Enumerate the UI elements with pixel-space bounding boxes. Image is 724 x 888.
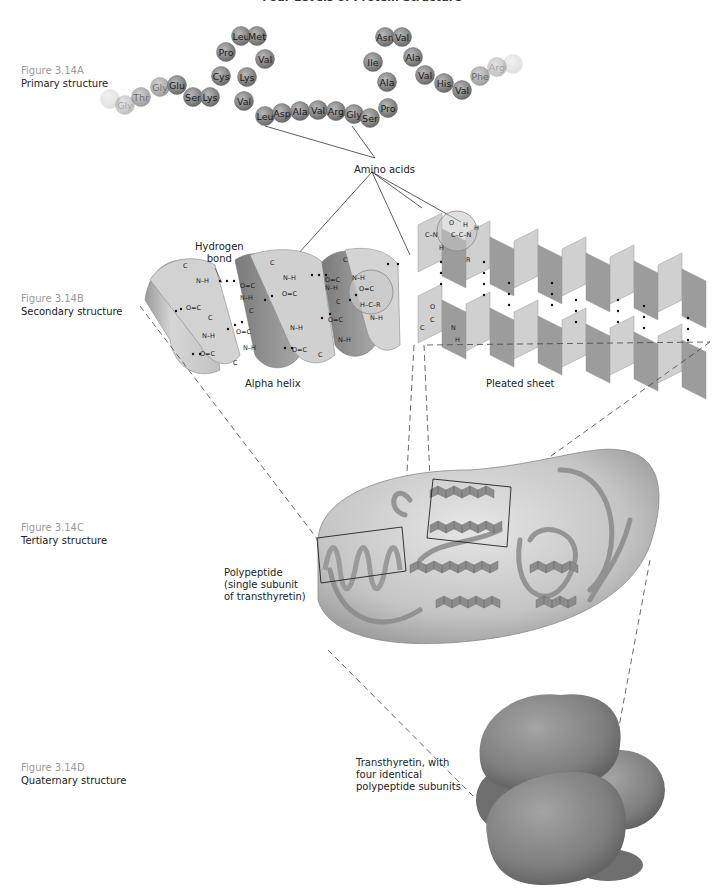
- amino-acid-label: Ala: [293, 106, 308, 117]
- svg-text:R: R: [466, 256, 471, 264]
- svg-text:H: H: [463, 221, 468, 229]
- amino-acid-label: Lys: [240, 72, 255, 83]
- amino-acid-bead: Leu: [256, 107, 275, 126]
- amino-acid-label: Lys: [203, 92, 218, 103]
- svg-text:C: C: [430, 316, 435, 324]
- amino-acid-label: Leu: [257, 111, 274, 122]
- protein-structure-artwork: GlyThrGlyGluSerLysCysProLeuMetValLysValL…: [0, 0, 724, 888]
- amino-acid-label: Ser: [185, 92, 201, 103]
- amino-acid-label: Val: [258, 54, 272, 65]
- amino-acid-label: His: [437, 78, 452, 89]
- amino-acid-label: Phe: [471, 71, 489, 82]
- svg-text:C: C: [343, 256, 348, 264]
- amino-acid-bead: Ile: [364, 53, 383, 72]
- svg-text:H–C–R: H–C–R: [360, 301, 381, 309]
- svg-text:C: C: [336, 298, 341, 306]
- svg-text:C: C: [249, 307, 254, 315]
- svg-text:N–H: N–H: [202, 332, 215, 340]
- alpha-helix-label: Alpha helix: [245, 378, 301, 390]
- amino-acid-label: Thr: [132, 92, 149, 103]
- svg-text:O=C: O=C: [328, 316, 344, 324]
- pleated-sheet-label: Pleated sheet: [486, 378, 554, 390]
- amino-acid-label: Glu: [169, 80, 185, 91]
- svg-text:O=C: O=C: [292, 346, 308, 354]
- svg-text:H: H: [474, 224, 479, 232]
- quaternary-blob: [476, 694, 665, 885]
- amino-acid-bead: Val: [393, 28, 412, 47]
- svg-text:C: C: [233, 359, 238, 367]
- tertiary-envelope: [317, 449, 659, 643]
- svg-text:C: C: [318, 351, 323, 359]
- amino-acid-bead: Val: [416, 66, 435, 85]
- amino-acid-label: Pro: [218, 47, 233, 58]
- svg-text:O=C: O=C: [186, 304, 202, 312]
- amino-acid-label: Arg: [328, 106, 344, 117]
- amino-acid-bead: Arg: [327, 102, 346, 121]
- amino-acid-label: Gly: [346, 109, 362, 120]
- amino-acid-label: Ala: [406, 52, 421, 63]
- pleated-sheet: C–NH OC–C–N HH R OC CN H: [418, 211, 706, 399]
- amino-acid-bead: Asp: [273, 104, 292, 123]
- svg-text:N–H: N–H: [283, 274, 296, 282]
- amino-acid-label: Pro: [380, 103, 395, 114]
- amino-acid-bead: Ala: [378, 73, 397, 92]
- svg-text:O: O: [449, 219, 454, 227]
- svg-text:O=C: O=C: [200, 350, 216, 358]
- amino-acid-label: Met: [248, 31, 266, 42]
- amino-acid-bead: Ala: [291, 102, 310, 121]
- amino-acid-label: Ala: [380, 77, 395, 88]
- svg-text:H: H: [455, 336, 460, 344]
- amino-acid-label: Val: [311, 105, 325, 116]
- svg-text:O=C: O=C: [282, 290, 298, 298]
- amino-acid-bead: Ala: [404, 48, 423, 67]
- quaternary-caption: Transthyretin, with four identical polyp…: [356, 757, 461, 793]
- svg-text:N–H: N–H: [240, 294, 253, 302]
- amino-acid-bead: Asn: [376, 28, 395, 47]
- amino-acid-bead: Thr: [132, 88, 151, 107]
- amino-acid-bead: Lys: [201, 88, 220, 107]
- svg-text:N–H: N–H: [243, 344, 256, 352]
- amino-acid-bead: Ser: [361, 109, 380, 128]
- amino-acid-bead: Met: [248, 27, 267, 46]
- amino-acid-label: Asn: [376, 32, 393, 43]
- amino-acid-label: Val: [455, 85, 469, 96]
- svg-text:N–H: N–H: [325, 284, 338, 292]
- svg-text:N–H: N–H: [338, 336, 351, 344]
- amino-acid-bead: His: [435, 74, 454, 93]
- amino-acid-label: Val: [395, 32, 409, 43]
- hydrogen-bond-label: Hydrogen bond: [195, 241, 244, 265]
- amino-acid-label: Arg: [489, 62, 505, 73]
- svg-text:O=C: O=C: [236, 328, 252, 336]
- amino-acid-label: Ile: [367, 57, 378, 68]
- svg-text:O=C: O=C: [359, 285, 375, 293]
- amino-acid-bead: Cys: [212, 67, 231, 86]
- amino-acid-label: Cys: [212, 71, 229, 82]
- svg-text:N–H: N–H: [290, 324, 303, 332]
- amino-acid-bead: Glu: [168, 76, 187, 95]
- svg-text:O: O: [430, 303, 435, 311]
- svg-text:N–H: N–H: [196, 277, 209, 285]
- svg-text:H: H: [439, 244, 444, 252]
- amino-acid-bead: Lys: [238, 68, 257, 87]
- amino-acid-label: Ser: [362, 113, 378, 124]
- amino-acid-bead: Val: [309, 101, 328, 120]
- amino-acid-bead: Phe: [471, 67, 490, 86]
- amino-acid-bead: Val: [235, 92, 254, 111]
- tertiary-caption: Polypeptide (single subunit of transthyr…: [224, 567, 306, 603]
- amino-acid-label: Gly: [117, 100, 133, 111]
- svg-text:O=C: O=C: [325, 276, 341, 284]
- amino-acid-label: Leu: [233, 31, 250, 42]
- amino-acid-bead: Val: [453, 81, 472, 100]
- amino-acid-bead: [504, 55, 523, 74]
- amino-acid-label: Asp: [273, 108, 290, 119]
- amino-acids-label: Amino acids: [354, 164, 415, 176]
- amino-acid-bead: Gly: [151, 78, 170, 97]
- amino-acid-label: Gly: [152, 82, 168, 93]
- amino-acid-bead: Arg: [488, 58, 507, 77]
- amino-acid-bead: Pro: [217, 43, 236, 62]
- svg-text:C: C: [420, 324, 425, 332]
- amino-acid-bead: Pro: [379, 99, 398, 118]
- svg-text:O=C: O=C: [240, 282, 256, 290]
- amino-acid-chain: GlyThrGlyGluSerLysCysProLeuMetValLysValL…: [101, 27, 523, 128]
- svg-text:C: C: [270, 259, 275, 267]
